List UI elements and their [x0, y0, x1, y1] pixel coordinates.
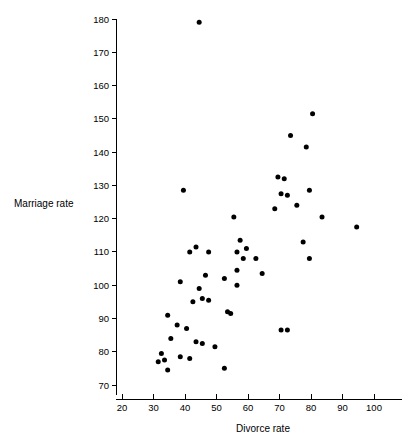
y-tick-label: 90	[98, 313, 109, 324]
data-point	[156, 359, 161, 364]
y-tick-label: 180	[93, 14, 109, 25]
data-point	[200, 296, 205, 301]
y-axis: 708090100110120130140150160170180	[93, 14, 116, 395]
data-point	[307, 188, 312, 193]
scatter-plot-figure: 708090100110120130140150160170180 203040…	[0, 0, 406, 440]
x-axis-title: Divorce rate	[236, 423, 290, 434]
x-axis: 2030405060708090100	[116, 394, 402, 413]
data-point	[285, 328, 290, 333]
data-point	[222, 276, 227, 281]
data-point	[222, 366, 227, 371]
data-point	[282, 176, 287, 181]
x-tick-label: 50	[211, 402, 222, 413]
data-point	[285, 193, 290, 198]
data-point	[178, 279, 183, 284]
data-point	[272, 206, 277, 211]
data-point	[228, 311, 233, 316]
data-point	[187, 356, 192, 361]
y-tick-label: 150	[93, 113, 109, 124]
data-points-layer	[156, 20, 359, 373]
data-point	[212, 344, 217, 349]
x-tick-label: 100	[366, 402, 382, 413]
data-point	[231, 214, 236, 219]
data-point	[197, 286, 202, 291]
x-tick-label: 30	[148, 402, 159, 413]
y-tick-label: 70	[98, 380, 109, 391]
data-point	[168, 336, 173, 341]
data-point	[175, 323, 180, 328]
y-axis-title: Marriage rate	[14, 198, 74, 209]
data-point	[206, 298, 211, 303]
data-point	[301, 239, 306, 244]
data-point	[238, 238, 243, 243]
data-point	[181, 188, 186, 193]
data-point	[203, 273, 208, 278]
data-point	[294, 203, 299, 208]
plot-canvas: 708090100110120130140150160170180 203040…	[0, 0, 406, 440]
data-point	[178, 354, 183, 359]
data-point	[253, 256, 258, 261]
x-tick-label: 70	[274, 402, 285, 413]
data-point	[310, 111, 315, 116]
data-point	[194, 339, 199, 344]
data-point	[165, 313, 170, 318]
data-point	[165, 368, 170, 373]
data-point	[162, 358, 167, 363]
data-point	[275, 175, 280, 180]
data-point	[190, 299, 195, 304]
data-point	[187, 249, 192, 254]
data-point	[200, 341, 205, 346]
data-point	[279, 328, 284, 333]
data-point	[184, 326, 189, 331]
data-point	[304, 145, 309, 150]
data-point	[234, 283, 239, 288]
y-tick-label: 110	[94, 246, 109, 257]
y-tick-label: 160	[93, 80, 109, 91]
y-tick-label: 130	[93, 180, 109, 191]
x-tick-label: 90	[337, 402, 348, 413]
x-tick-label: 60	[243, 402, 254, 413]
data-point	[241, 256, 246, 261]
data-point	[234, 249, 239, 254]
x-tick-label: 20	[117, 402, 128, 413]
y-tick-label: 120	[93, 213, 109, 224]
data-point	[244, 246, 249, 251]
y-tick-label: 140	[93, 147, 109, 158]
x-tick-label: 80	[306, 402, 317, 413]
x-tick-label: 40	[180, 402, 191, 413]
data-point	[354, 224, 359, 229]
data-point	[279, 191, 284, 196]
data-point	[307, 256, 312, 261]
data-point	[197, 20, 202, 25]
data-point	[234, 268, 239, 273]
data-point	[260, 271, 265, 276]
y-tick-label: 80	[98, 346, 109, 357]
y-tick-label: 170	[93, 47, 109, 58]
data-point	[320, 214, 325, 219]
data-point	[194, 244, 199, 249]
data-point	[159, 351, 164, 356]
data-point	[288, 133, 293, 138]
y-tick-label: 100	[93, 280, 109, 291]
data-point	[206, 249, 211, 254]
